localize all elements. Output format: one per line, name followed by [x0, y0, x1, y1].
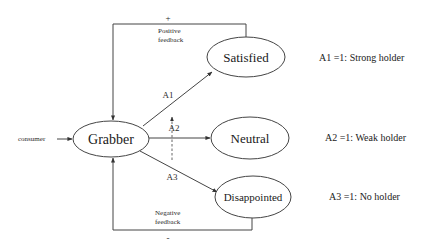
- positive-sign: +: [165, 13, 170, 23]
- positive-feedback-line2: feedback: [158, 36, 184, 44]
- negative-feedback-line2: feedback: [155, 218, 181, 226]
- node-grabber: Grabber: [73, 121, 149, 157]
- edge-a3: [140, 151, 217, 192]
- consumer-label: consumer: [18, 135, 46, 143]
- edge-a2-label: A2: [169, 123, 180, 133]
- grabber-label: Grabber: [88, 132, 134, 147]
- node-disappointed: Disappointed: [215, 176, 291, 218]
- neutral-label: Neutral: [231, 131, 270, 146]
- node-neutral: Neutral: [211, 117, 289, 159]
- edge-a1: [143, 72, 212, 126]
- satisfied-label: Satisfied: [223, 50, 269, 65]
- legend-a1: A1 =1: Strong holder: [319, 52, 405, 63]
- legend-a3: A3 =1: No holder: [329, 191, 401, 202]
- negative-sign: -: [167, 233, 170, 243]
- edge-a1-label: A1: [163, 90, 174, 100]
- disappointed-label: Disappointed: [224, 191, 283, 203]
- node-satisfied: Satisfied: [207, 37, 285, 77]
- edge-a3-label: A3: [167, 172, 178, 182]
- legend-a2: A2 =1: Weak holder: [325, 132, 407, 143]
- positive-feedback-line1: Positive: [158, 27, 181, 35]
- consumer-state-diagram: consumer + Positive feedback Negative fe…: [0, 0, 428, 247]
- negative-feedback-line1: Negative: [155, 209, 180, 217]
